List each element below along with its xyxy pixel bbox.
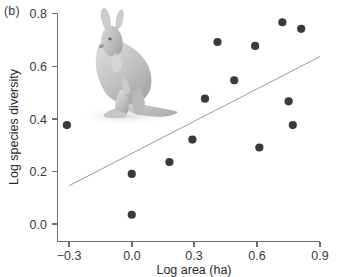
y-tick-label: 0.4	[30, 113, 47, 127]
data-point	[297, 25, 305, 33]
data-point	[63, 121, 71, 129]
x-tick-label: −0.3	[57, 249, 82, 263]
data-point	[128, 170, 136, 178]
data-point	[165, 158, 173, 166]
data-point	[285, 97, 293, 105]
x-tick-label: 0.0	[123, 249, 140, 263]
y-tick-label: 0.6	[30, 60, 47, 74]
data-point	[188, 136, 196, 144]
data-points-group	[63, 18, 305, 219]
regression-line	[69, 57, 320, 186]
y-tick-label: 0.0	[30, 218, 47, 232]
data-point	[128, 211, 136, 219]
data-point	[201, 95, 209, 103]
data-point	[213, 38, 221, 46]
x-axis-title: Log area (ha)	[156, 263, 231, 277]
data-point	[289, 121, 297, 129]
data-point	[255, 143, 263, 151]
data-point	[251, 42, 259, 50]
data-point	[278, 18, 286, 26]
x-tick-label: 0.3	[185, 249, 202, 263]
x-tick-label: 0.6	[248, 249, 265, 263]
y-axis-title: Log species diversity	[7, 68, 21, 185]
x-axis: −0.3 0.0 0.3 0.6 0.9	[57, 242, 329, 264]
data-point	[230, 76, 238, 84]
figure-panel: (b)	[0, 0, 342, 277]
x-tick-label: 0.9	[311, 249, 328, 263]
y-tick-label: 0.2	[30, 165, 47, 179]
y-axis: 0.8 0.6 0.4 0.2 0.0	[30, 7, 58, 241]
y-tick-label: 0.8	[30, 7, 47, 21]
scatter-plot: 0.8 0.6 0.4 0.2 0.0 −0.3 0.0 0.3 0.6 0.9…	[0, 0, 342, 277]
